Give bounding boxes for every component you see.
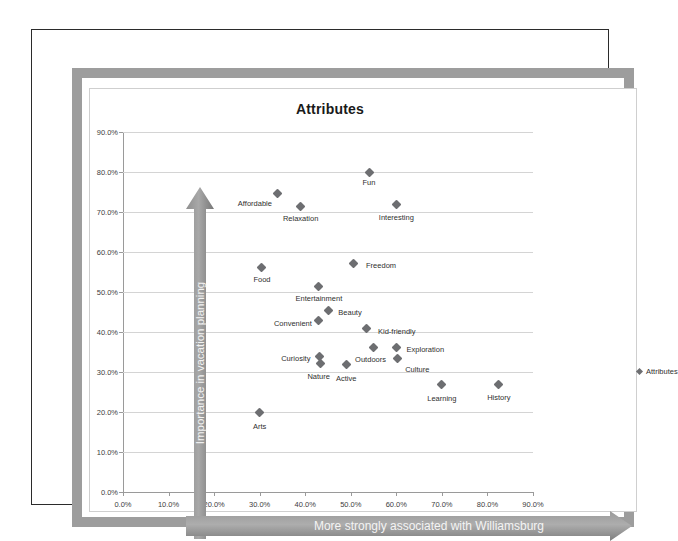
y-tick-mark: [119, 412, 123, 413]
x-tick-label: 30.0%: [249, 500, 270, 509]
data-point-marker[interactable]: [391, 200, 401, 210]
data-point-marker[interactable]: [323, 305, 333, 315]
x-tick-label: 80.0%: [477, 500, 498, 509]
data-point-label: Learning: [427, 394, 456, 403]
y-tick-mark: [119, 372, 123, 373]
y-tick-label: 30.0%: [97, 368, 118, 377]
data-point-marker[interactable]: [392, 353, 402, 363]
y-tick-label: 70.0%: [97, 208, 118, 217]
x-tick-label: 10.0%: [158, 500, 179, 509]
data-point-label: Curiosity: [281, 354, 310, 363]
gridline: [123, 252, 533, 253]
data-point-label: Outdoors: [355, 355, 386, 364]
data-point-marker[interactable]: [314, 315, 324, 325]
y-tick-mark: [119, 332, 123, 333]
data-point-label: Convenient: [274, 319, 312, 328]
data-point-label: Interesting: [379, 213, 414, 222]
y-tick-label: 80.0%: [97, 168, 118, 177]
data-point-label: Culture: [405, 365, 429, 374]
y-tick-mark: [119, 452, 123, 453]
gridline: [123, 412, 533, 413]
y-tick-label: 0.0%: [101, 488, 118, 497]
data-point-marker[interactable]: [494, 379, 504, 389]
chart-container: Attributes 0.0%10.0%20.0%30.0%40.0%50.0%…: [89, 88, 637, 512]
y-tick-label: 50.0%: [97, 288, 118, 297]
x-tick-mark: [169, 492, 170, 496]
y-axis-line: [123, 132, 124, 492]
x-tick-mark: [214, 492, 215, 496]
x-tick-mark: [351, 492, 352, 496]
data-point-label: Fun: [363, 178, 376, 187]
y-tick-label: 40.0%: [97, 328, 118, 337]
y-tick-mark: [119, 212, 123, 213]
data-point-marker[interactable]: [341, 360, 351, 370]
gridline: [123, 172, 533, 173]
chart-title: Attributes: [90, 101, 570, 117]
data-point-label: Freedom: [366, 261, 396, 270]
data-point-label: Beauty: [338, 308, 361, 317]
data-point-marker[interactable]: [257, 262, 267, 272]
x-tick-label: 70.0%: [431, 500, 452, 509]
data-point-label: Nature: [307, 372, 330, 381]
data-point-marker[interactable]: [255, 408, 265, 418]
data-point-label: Entertainment: [296, 294, 343, 303]
chart-legend[interactable]: Attributes: [637, 367, 678, 376]
data-point-label: Arts: [253, 422, 266, 431]
data-point-marker[interactable]: [364, 167, 374, 177]
y-tick-mark: [119, 132, 123, 133]
y-tick-mark: [119, 252, 123, 253]
legend-label: Attributes: [646, 367, 678, 376]
document-outer-border: Attributes 0.0%10.0%20.0%30.0%40.0%50.0%…: [31, 29, 609, 505]
x-tick-mark: [123, 492, 124, 496]
x-axis-label: More strongly associated with Williamsbu…: [274, 519, 544, 533]
data-point-label: Exploration: [407, 345, 445, 354]
x-tick-label: 50.0%: [340, 500, 361, 509]
y-tick-label: 90.0%: [97, 128, 118, 137]
data-point-marker[interactable]: [296, 201, 306, 211]
data-point-label: History: [487, 393, 510, 402]
gridline: [123, 492, 533, 493]
y-tick-mark: [119, 172, 123, 173]
data-point-marker[interactable]: [314, 281, 324, 291]
data-point-marker[interactable]: [348, 258, 358, 268]
x-tick-label: 40.0%: [295, 500, 316, 509]
y-tick-label: 60.0%: [97, 248, 118, 257]
data-point-marker[interactable]: [437, 380, 447, 390]
x-tick-mark: [305, 492, 306, 496]
gridline: [123, 452, 533, 453]
data-point-marker[interactable]: [369, 342, 379, 352]
x-tick-mark: [260, 492, 261, 496]
gridline: [123, 292, 533, 293]
gridline: [123, 212, 533, 213]
y-axis-label: Importance in vacation planning: [194, 282, 206, 444]
y-tick-label: 20.0%: [97, 408, 118, 417]
gridline: [123, 132, 533, 133]
x-tick-label: 60.0%: [386, 500, 407, 509]
legend-marker-icon: [636, 368, 643, 375]
data-point-label: Relaxation: [283, 214, 318, 223]
x-tick-mark: [533, 492, 534, 496]
plot-area: 0.0%10.0%20.0%30.0%40.0%50.0%60.0%70.0%8…: [123, 132, 533, 492]
x-tick-mark: [396, 492, 397, 496]
y-tick-mark: [119, 292, 123, 293]
data-point-label: Food: [253, 275, 270, 284]
x-tick-label: 90.0%: [522, 500, 543, 509]
data-point-marker[interactable]: [391, 342, 401, 352]
x-tick-label: 0.0%: [114, 500, 131, 509]
y-tick-label: 10.0%: [97, 448, 118, 457]
x-tick-mark: [487, 492, 488, 496]
data-point-label: Affordable: [238, 199, 272, 208]
x-tick-mark: [442, 492, 443, 496]
y-axis-arrow-label-wrap: Importance in vacation planning: [186, 187, 214, 539]
data-point-marker[interactable]: [273, 188, 283, 198]
data-point-label: Kid-friendly: [378, 327, 416, 336]
data-point-label: Active: [336, 374, 356, 383]
x-axis-arrow-label-wrap: More strongly associated with Williamsbu…: [186, 511, 632, 541]
gridline: [123, 332, 533, 333]
